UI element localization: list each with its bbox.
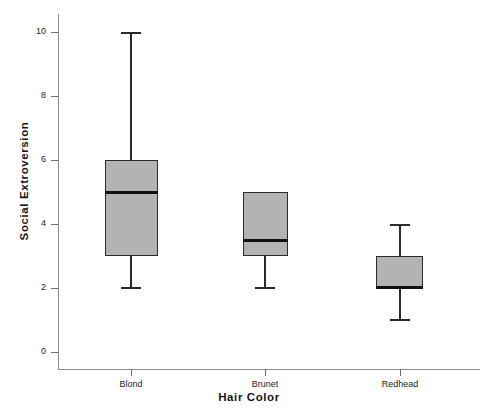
box-blond [105,160,158,256]
whisker-lower-cap-brunet [255,287,275,289]
y-tick-4 [51,224,58,225]
x-axis-title: Hair Color [0,391,498,403]
y-tick-8 [51,96,58,97]
boxplot-chart: Social Extroversion Hair Color 10 8 6 4 … [0,0,498,416]
x-tick-brunet [265,369,266,376]
box-brunet [243,192,288,256]
x-tick-label-blond: Blond [71,379,191,389]
y-tick-label-4: 4 [6,219,46,228]
y-tick-label-6: 6 [6,155,46,164]
box-redhead [376,256,423,288]
median-line-blond [105,191,158,194]
x-tick-label-brunet: Brunet [205,379,325,389]
whisker-upper-line-blond [130,32,132,160]
whisker-lower-line-redhead [399,288,401,320]
median-line-brunet [243,239,288,242]
whisker-lower-line-blond [130,256,132,288]
y-tick-0 [51,352,58,353]
x-tick-blond [131,369,132,376]
y-axis-title: Social Extroversion [18,91,30,271]
x-tick-label-redhead: Redhead [340,379,460,389]
whisker-upper-cap-redhead [390,224,410,226]
whisker-upper-cap-blond [121,32,141,34]
y-tick-10 [51,32,58,33]
x-tick-redhead [400,369,401,376]
whisker-upper-line-redhead [399,224,401,256]
y-tick-6 [51,160,58,161]
median-line-redhead [376,286,423,289]
whisker-lower-cap-redhead [390,319,410,321]
x-axis-line [58,369,480,370]
y-axis-line [58,14,59,370]
y-tick-label-8: 8 [6,91,46,100]
y-tick-label-0: 0 [6,347,46,356]
whisker-lower-line-brunet [264,256,266,288]
y-tick-2 [51,288,58,289]
y-tick-label-10: 10 [6,27,46,36]
whisker-lower-cap-blond [121,287,141,289]
y-tick-label-2: 2 [6,283,46,292]
